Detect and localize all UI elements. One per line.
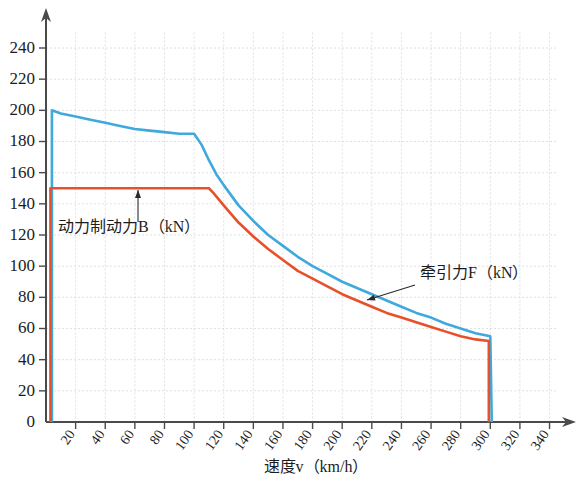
chart-container: 020406080100120140160180200220240 204060… — [0, 0, 578, 478]
x-tick-label: 340 — [528, 427, 552, 453]
tractive-effort-braking-force-chart: 020406080100120140160180200220240 204060… — [0, 0, 578, 478]
x-tick-label: 160 — [261, 427, 285, 453]
x-axis-title: 速度v（km/h） — [264, 458, 369, 475]
y-tick-label: 40 — [18, 350, 35, 369]
y-tick-label: 100 — [10, 256, 36, 275]
traction-force-label: 牵引力F（kN） — [420, 264, 528, 281]
brake-force-label-arrow-head — [135, 190, 141, 198]
x-tick-label: 220 — [350, 427, 374, 453]
x-tick-label: 80 — [147, 427, 167, 447]
y-tick-labels: 020406080100120140160180200220240 — [10, 38, 36, 431]
x-tick-label: 240 — [380, 427, 404, 453]
y-tick-label: 180 — [10, 131, 36, 150]
x-tick-label: 280 — [439, 427, 463, 453]
brake-force-label: 动力制动力B（kN） — [58, 218, 200, 235]
x-tick-label: 40 — [87, 427, 107, 447]
x-tick-label: 180 — [291, 427, 315, 453]
y-tick-label: 120 — [10, 225, 36, 244]
x-tick-label: 20 — [58, 427, 78, 447]
y-tick-label: 0 — [27, 412, 36, 431]
y-tick-label: 140 — [10, 194, 36, 213]
annotations: 动力制动力B（kN）牵引力F（kN） — [58, 190, 528, 300]
x-tick-label: 100 — [172, 427, 196, 453]
y-tick-label: 200 — [10, 100, 36, 119]
y-tick-label: 60 — [18, 318, 35, 337]
x-tick-labels: 2040608010012014016018020022024026028030… — [58, 427, 552, 453]
x-tick-label: 260 — [409, 427, 433, 453]
x-tick-label: 60 — [117, 427, 137, 447]
y-tick-label: 20 — [18, 381, 35, 400]
y-tick-label: 80 — [18, 287, 35, 306]
x-tick-label: 300 — [468, 427, 492, 453]
x-tick-label: 200 — [320, 427, 344, 453]
y-tick-label: 160 — [10, 163, 36, 182]
x-tick-label: 140 — [231, 427, 255, 453]
x-tick-label: 320 — [498, 427, 522, 453]
x-tick-label: 120 — [202, 427, 226, 453]
x-axis — [46, 417, 576, 429]
y-tick-label: 220 — [10, 69, 36, 88]
y-tick-label: 240 — [10, 38, 36, 57]
